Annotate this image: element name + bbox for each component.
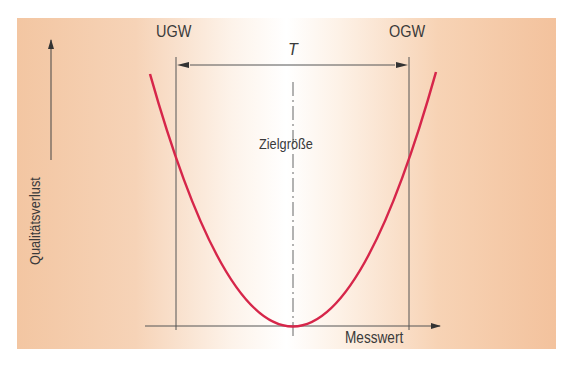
target-label: Zielgröße	[259, 135, 313, 152]
lower-limit-label: UGW	[156, 22, 191, 42]
y-axis-label: Qualitätsverlust	[26, 177, 43, 265]
upper-limit-label: OGW	[389, 22, 425, 42]
x-axis-label: Messwert	[345, 329, 403, 347]
tolerance-label: T	[288, 41, 298, 59]
loss-function-diagram	[0, 0, 563, 374]
